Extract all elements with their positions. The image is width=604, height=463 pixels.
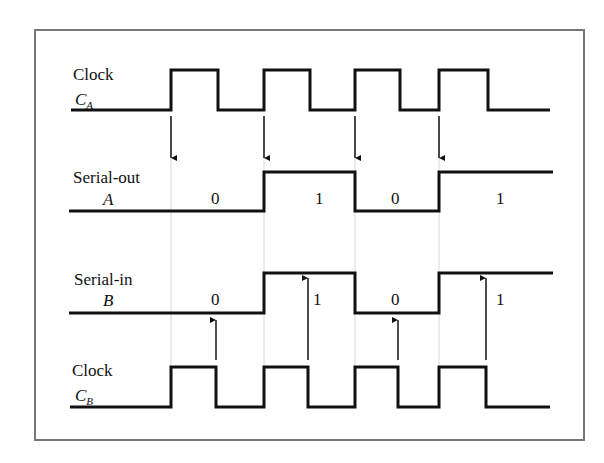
serial-out-bit-0: 0	[211, 189, 220, 208]
serial-in-bit-3: 1	[496, 290, 505, 309]
clock-a-label: Clock	[73, 65, 114, 84]
serial-out-bit-3: 1	[496, 189, 505, 208]
clock-b-label: Clock	[72, 361, 113, 380]
serial-out-bit-2: 0	[391, 189, 400, 208]
clock-a-symbol: CA	[75, 90, 93, 111]
up-arrow-icon	[216, 278, 486, 360]
serial-in-bit-0: 0	[211, 290, 220, 309]
clock-a-waveform	[71, 70, 550, 110]
down-arrow-icon	[171, 116, 439, 158]
serial-out-label: Serial-out	[73, 168, 140, 187]
serial-out-bit-1: 1	[315, 189, 324, 208]
serial-in-label: Serial-in	[74, 270, 133, 289]
clock-b-waveform	[70, 367, 550, 407]
guide-lines	[171, 118, 439, 367]
serial-in-symbol: B	[103, 291, 114, 310]
clock-b-symbol: CB	[75, 386, 93, 407]
serial-in-bit-2: 0	[391, 290, 400, 309]
serial-out-waveform	[69, 172, 553, 211]
serial-out-symbol: A	[102, 190, 114, 209]
serial-in-bit-1: 1	[313, 290, 322, 309]
serial-in-waveform	[69, 273, 553, 313]
timing-diagram: Clock CA Serial-out A 0 1 0 1 Serial-in …	[0, 0, 604, 463]
